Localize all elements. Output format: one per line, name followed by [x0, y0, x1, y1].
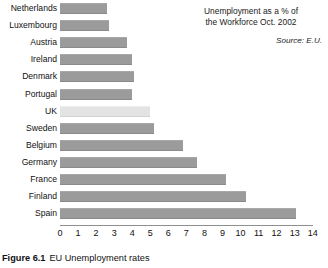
- bar-row: France: [0, 173, 328, 186]
- figure-caption-number: Figure 6.1: [2, 253, 45, 263]
- category-label-france: France: [0, 173, 57, 186]
- category-label-ireland: Ireland: [0, 53, 57, 66]
- category-label-belgium: Belgium: [0, 139, 57, 152]
- bar-row: Sweden: [0, 122, 328, 135]
- bar-row: Netherlands: [0, 2, 328, 15]
- category-label-sweden: Sweden: [0, 122, 57, 135]
- bar-row: Ireland: [0, 53, 328, 66]
- x-tick-label: 14: [303, 227, 323, 239]
- bar-uk: [60, 106, 150, 117]
- bar-row: Austria: [0, 36, 328, 49]
- x-tick-label: 0: [50, 227, 70, 239]
- x-tick-label: 11: [249, 227, 269, 239]
- category-label-luxembourg: Luxembourg: [0, 19, 57, 32]
- category-label-denmark: Denmark: [0, 70, 57, 83]
- x-tick-label: 4: [122, 227, 142, 239]
- bar-portugal: [60, 89, 132, 100]
- category-label-uk: UK: [0, 105, 57, 118]
- bar-sweden: [60, 123, 154, 134]
- bar-france: [60, 174, 226, 185]
- bar-belgium: [60, 140, 183, 151]
- category-label-finland: Finland: [0, 190, 57, 203]
- category-label-portugal: Portugal: [0, 88, 57, 101]
- bar-row: Luxembourg: [0, 19, 328, 32]
- x-tick-label: 2: [86, 227, 106, 239]
- category-label-germany: Germany: [0, 156, 57, 169]
- x-tick-label: 12: [267, 227, 287, 239]
- category-label-spain: Spain: [0, 207, 57, 220]
- x-tick-label: 13: [285, 227, 305, 239]
- bar-luxembourg: [60, 20, 109, 31]
- bar-denmark: [60, 71, 134, 82]
- bar-germany: [60, 157, 197, 168]
- bar-row: Finland: [0, 190, 328, 203]
- bar-row: Belgium: [0, 139, 328, 152]
- bar-spain: [60, 208, 296, 219]
- bar-row: UK: [0, 105, 328, 118]
- bar-row: Denmark: [0, 70, 328, 83]
- bar-netherlands: [60, 3, 107, 14]
- figure-eu-unemployment: Unemployment as a % of the Workforce Oct…: [0, 0, 328, 268]
- figure-caption: Figure 6.1EU Unemployment rates: [2, 252, 322, 264]
- x-axis-line: [60, 225, 313, 226]
- category-label-netherlands: Netherlands: [0, 2, 57, 15]
- x-tick-label: 3: [104, 227, 124, 239]
- x-tick-label: 6: [158, 227, 178, 239]
- x-tick-label: 9: [212, 227, 232, 239]
- bar-row: Germany: [0, 156, 328, 169]
- bar-row: Portugal: [0, 88, 328, 101]
- plot-area: NetherlandsLuxembourgAustriaIrelandDenma…: [0, 0, 328, 226]
- x-tick-label: 8: [194, 227, 214, 239]
- figure-caption-text: EU Unemployment rates: [49, 253, 149, 263]
- x-tick-label: 10: [231, 227, 251, 239]
- bar-row: Spain: [0, 207, 328, 220]
- x-tick-label: 7: [176, 227, 196, 239]
- x-tick-label: 5: [140, 227, 160, 239]
- category-label-austria: Austria: [0, 36, 57, 49]
- bar-ireland: [60, 54, 132, 65]
- bar-finland: [60, 191, 246, 202]
- bar-austria: [60, 37, 127, 48]
- x-tick-label: 1: [68, 227, 88, 239]
